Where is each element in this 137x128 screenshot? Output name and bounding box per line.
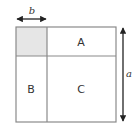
shaded-square [16, 27, 47, 56]
region-label-b: B [27, 83, 35, 96]
dimension-label-b: b [29, 5, 35, 16]
dimension-label-a: a [126, 68, 132, 79]
region-label-a: A [77, 36, 85, 49]
region-label-c: C [77, 83, 85, 96]
area-diagram: A B C b a [0, 0, 137, 128]
